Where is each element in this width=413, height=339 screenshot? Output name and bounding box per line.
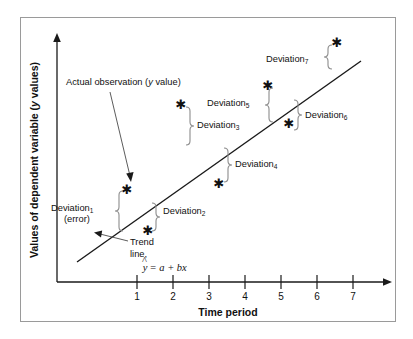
y-axis-title-pre: Values of dependent variable ( — [28, 106, 40, 258]
deviation-5-word: Deviation — [207, 98, 246, 108]
x-tick-label-2: 2 — [170, 291, 176, 302]
deviation-3-brace — [186, 107, 194, 145]
deviation-4-label: Deviation4 — [235, 159, 278, 170]
actual-observation-leader-line — [110, 92, 130, 176]
deviation-1-label: Deviation1 — [51, 203, 94, 214]
figure-page: 1 2 3 4 5 6 7 Time period Values of depe… — [0, 0, 413, 339]
actual-observation-arrowhead — [126, 172, 133, 182]
y-axis-title: Values of dependent variable (y values) — [28, 62, 40, 258]
deviation-4-word: Deviation — [235, 159, 274, 169]
deviation-1-word: Deviation — [51, 203, 90, 213]
deviation-6-label: Deviation6 — [305, 110, 348, 121]
deviation-2-word: Deviation — [163, 206, 202, 216]
x-tick-label-6: 6 — [314, 291, 320, 302]
trend-line-label-line1: Trend — [130, 237, 154, 247]
deviation-6-word: Deviation — [305, 110, 344, 120]
y-axis-arrowhead — [53, 33, 61, 42]
trend-line — [77, 61, 361, 262]
deviation-2-subscript: 2 — [202, 210, 206, 217]
actual-observation-post: value) — [153, 77, 181, 87]
deviation-7-word: Deviation — [266, 54, 305, 64]
deviation-6-subscript: 6 — [344, 114, 348, 121]
x-tick-label-4: 4 — [242, 291, 248, 302]
x-tick-label-7: 7 — [350, 291, 356, 302]
deviation-1-error-label: (error) — [64, 214, 90, 224]
x-axis-title: Time period — [198, 306, 257, 318]
deviation-3-subscript: 3 — [236, 124, 240, 131]
deviation-2-label: Deviation2 — [163, 206, 206, 217]
trend-line-formula-rest: = a + bx — [147, 262, 187, 273]
trend-line-arrowhead — [94, 231, 102, 238]
deviation-3-label: Deviation3 — [197, 120, 240, 131]
data-point-7: ✱ — [332, 35, 343, 50]
data-point-3: ✱ — [176, 97, 187, 112]
deviation-7-label: Deviation7 — [266, 54, 309, 65]
deviation-7-subscript: 7 — [305, 58, 309, 65]
trend-line-formula: y^ = a + bx — [142, 255, 187, 274]
deviation-5-label: Deviation5 — [207, 98, 250, 109]
deviation-5-subscript: 5 — [246, 102, 250, 109]
deviation-4-subscript: 4 — [274, 163, 278, 170]
data-point-2: ✱ — [143, 223, 154, 238]
deviation-5-brace — [265, 88, 273, 122]
data-point-4: ✱ — [214, 176, 225, 191]
data-point-6: ✱ — [284, 116, 295, 131]
x-tick-label-5: 5 — [278, 291, 284, 302]
x-axis-arrowhead — [383, 278, 392, 286]
deviation-1-subscript: 1 — [90, 207, 94, 214]
x-tick-label-1: 1 — [134, 291, 140, 302]
data-point-1: ✱ — [122, 182, 133, 197]
trend-line-chart: 1 2 3 4 5 6 7 Time period Values of depe… — [0, 0, 413, 339]
actual-observation-pre: Actual observation ( — [66, 77, 149, 87]
y-axis-title-post: values) — [28, 62, 40, 101]
x-tick-label-3: 3 — [206, 291, 212, 302]
deviation-6-brace — [294, 100, 302, 130]
deviation-3-word: Deviation — [197, 120, 236, 130]
actual-observation-label: Actual observation (y value) — [66, 77, 181, 87]
deviation-1-brace — [115, 191, 123, 231]
data-point-5: ✱ — [263, 78, 274, 93]
